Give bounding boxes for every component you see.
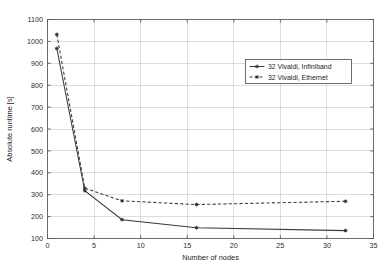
chart-legend: 32 Vivaldi, Infiniband32 Vivaldi, Ethern…	[246, 60, 352, 84]
series-marker-1	[344, 199, 348, 203]
y-axis-title: Absolute runtime [s]	[5, 96, 14, 161]
series-marker-0	[55, 47, 59, 51]
x-tick-label: 0	[46, 241, 50, 250]
y-tick-label: 1100	[28, 15, 43, 24]
x-tick-label: 15	[183, 241, 191, 250]
y-tick-label: 400	[31, 168, 43, 177]
legend-label-0: 32 Vivaldi, Infiniband	[268, 63, 332, 70]
y-tick-label: 200	[31, 212, 43, 221]
line-chart: 1002003004005006007008009001000110005101…	[0, 0, 389, 269]
y-tick-label: 100	[31, 234, 43, 243]
x-tick-label: 30	[323, 241, 331, 250]
x-tick-label: 25	[276, 241, 284, 250]
x-tick-label: 20	[230, 241, 238, 250]
x-tick-label: 10	[137, 241, 145, 250]
series-marker-1	[120, 199, 124, 203]
series-marker-0	[344, 229, 348, 233]
y-tick-label: 900	[31, 59, 43, 68]
chart-figure: 1002003004005006007008009001000110005101…	[0, 0, 389, 269]
x-tick-label: 5	[92, 241, 96, 250]
series-marker-0	[120, 218, 124, 222]
y-tick-label: 600	[31, 125, 43, 134]
series-marker-0	[195, 226, 199, 230]
series-marker-1	[83, 186, 87, 190]
x-axis-title: Number of nodes	[182, 253, 239, 262]
y-tick-label: 1000	[27, 37, 43, 46]
y-tick-label: 300	[31, 190, 43, 199]
series-marker-1	[55, 32, 59, 36]
x-tick-label: 35	[370, 241, 378, 250]
y-tick-label: 800	[31, 81, 43, 90]
legend-label-1: 32 Vivaldi, Ethernet	[268, 74, 328, 81]
series-marker-1	[195, 203, 199, 207]
y-tick-label: 700	[31, 103, 43, 112]
y-tick-label: 500	[31, 147, 43, 156]
